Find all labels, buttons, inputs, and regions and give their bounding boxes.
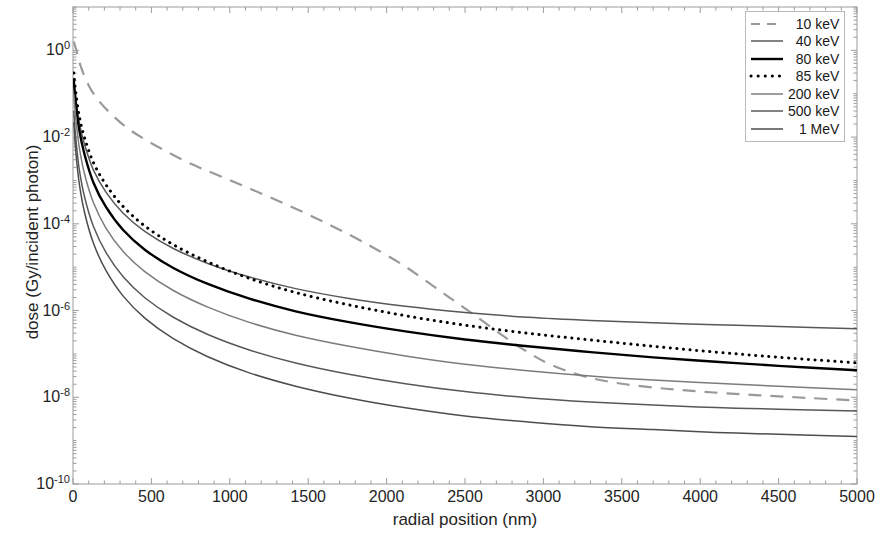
x-tick-label-9: 4500 bbox=[739, 488, 819, 506]
legend-line-sample-icon bbox=[749, 53, 785, 65]
legend-label: 1 MeV bbox=[785, 121, 839, 137]
x-tick-label-4: 2000 bbox=[347, 488, 427, 506]
legend-label: 10 keV bbox=[785, 16, 839, 32]
y-axis-title: dose (Gy/incident photon) bbox=[23, 92, 43, 392]
legend-label: 85 keV bbox=[785, 68, 839, 84]
legend-line-sample-icon bbox=[749, 18, 785, 30]
legend-line-sample-icon bbox=[749, 70, 785, 82]
legend-item-200-kev[interactable]: 200 keV bbox=[749, 85, 839, 103]
legend-item-85-kev[interactable]: 85 keV bbox=[749, 68, 839, 86]
legend-item-1-mev[interactable]: 1 MeV bbox=[749, 120, 839, 138]
dose-vs-radial-position-chart: 10010-210-410-610-810-10 050010001500200… bbox=[0, 0, 875, 539]
x-tick-label-7: 3500 bbox=[582, 488, 662, 506]
x-tick-label-10: 5000 bbox=[817, 488, 875, 506]
x-tick-label-0: 0 bbox=[33, 488, 113, 506]
x-tick-label-2: 1000 bbox=[190, 488, 270, 506]
x-tick-label-6: 3000 bbox=[503, 488, 583, 506]
x-axis-title: radial position (nm) bbox=[73, 510, 857, 530]
legend-line-sample-icon bbox=[749, 35, 785, 47]
legend-item-80-kev[interactable]: 80 keV bbox=[749, 50, 839, 68]
x-tick-label-5: 2500 bbox=[425, 488, 505, 506]
legend-label: 40 keV bbox=[785, 33, 839, 49]
x-tick-label-8: 4000 bbox=[660, 488, 740, 506]
legend-item-40-kev[interactable]: 40 keV bbox=[749, 33, 839, 51]
legend: 10 keV40 keV80 keV85 keV200 keV500 keV1 … bbox=[745, 11, 845, 142]
legend-label: 200 keV bbox=[785, 86, 839, 102]
x-tick-label-1: 500 bbox=[111, 488, 191, 506]
x-axis-tick-labels: 0500100015002000250030003500400045005000 bbox=[0, 0, 875, 539]
x-tick-label-3: 1500 bbox=[268, 488, 348, 506]
legend-line-sample-icon bbox=[749, 123, 785, 135]
legend-label: 80 keV bbox=[785, 51, 839, 67]
legend-line-sample-icon bbox=[749, 88, 785, 100]
legend-line-sample-icon bbox=[749, 105, 785, 117]
legend-item-500-kev[interactable]: 500 keV bbox=[749, 103, 839, 121]
legend-label: 500 keV bbox=[785, 103, 839, 119]
legend-item-10-kev[interactable]: 10 keV bbox=[749, 15, 839, 33]
